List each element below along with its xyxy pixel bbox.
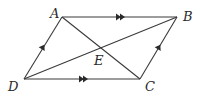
parallelogram-diagram: A B C D E: [0, 0, 202, 93]
double-arrow-icon-dc: [79, 76, 88, 83]
label-d: D: [7, 79, 19, 93]
single-arrow-icon-da: [39, 43, 48, 51]
label-e: E: [93, 53, 104, 68]
diagonal-db: [24, 17, 177, 79]
double-arrow-icon-ab: [116, 14, 125, 21]
label-c: C: [145, 79, 155, 93]
single-arrow-icon-cb: [155, 43, 164, 51]
label-a: A: [49, 6, 59, 21]
label-b: B: [182, 9, 193, 24]
